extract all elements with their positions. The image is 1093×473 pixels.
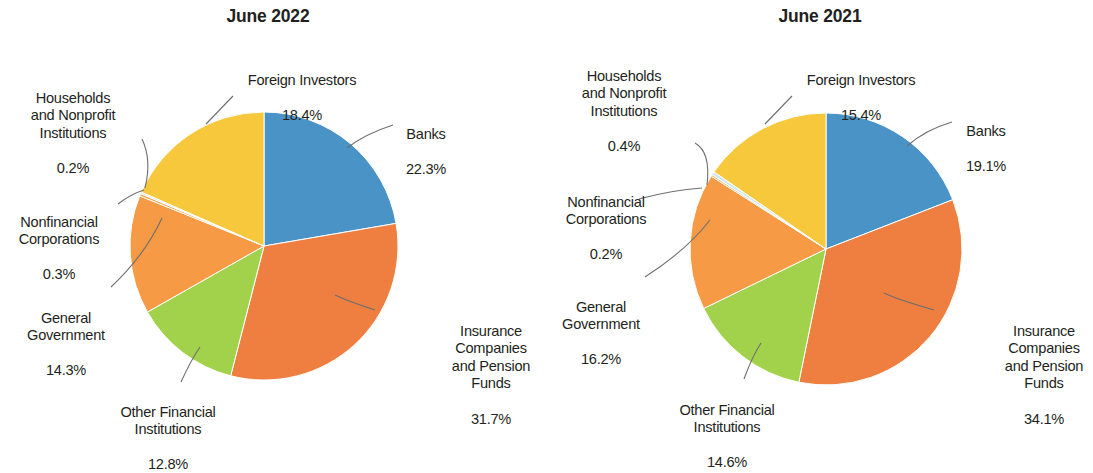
pie-graphic-right bbox=[690, 113, 962, 385]
label-other-financial-left: Other Financial Institutions 12.8% bbox=[98, 386, 238, 473]
label-insurance-right: Insurance Companies and Pension Funds 34… bbox=[990, 305, 1093, 428]
label-text: General Government bbox=[562, 299, 640, 333]
label-insurance-left: Insurance Companies and Pension Funds 31… bbox=[437, 305, 545, 428]
label-text: Insurance Companies and Pension Funds bbox=[1005, 323, 1083, 392]
pie-graphic-left bbox=[130, 112, 398, 380]
label-text: Foreign Investors bbox=[248, 72, 357, 88]
label-value: 14.6% bbox=[707, 454, 747, 470]
label-text: Insurance Companies and Pension Funds bbox=[452, 323, 530, 392]
label-value: 19.1% bbox=[966, 158, 1006, 174]
label-foreign-investors-right: Foreign Investors 15.4% bbox=[787, 54, 935, 124]
label-text: Households and Nonprofit Institutions bbox=[582, 68, 666, 119]
pie-slice-banks bbox=[264, 112, 396, 246]
label-text: Nonfinancial Corporations bbox=[19, 214, 100, 248]
label-government-left: General Government 14.3% bbox=[12, 292, 120, 380]
label-text: Banks bbox=[406, 126, 445, 142]
label-value: 0.2% bbox=[57, 160, 89, 176]
pie-slices-left bbox=[130, 112, 398, 380]
label-value: 0.2% bbox=[590, 246, 622, 262]
label-value: 22.3% bbox=[406, 161, 446, 177]
label-households-right: Households and Nonprofit Institutions 0.… bbox=[557, 50, 691, 156]
label-value: 15.4% bbox=[841, 107, 881, 123]
chart-title-left: June 2022 bbox=[0, 6, 541, 27]
label-text: Nonfinancial Corporations bbox=[566, 194, 647, 228]
pie-chart-june-2021: June 2021 Foreign Investors 15.4% Banks … bbox=[547, 0, 1093, 446]
label-banks-left: Banks 22.3% bbox=[385, 108, 467, 178]
label-households-left: Households and Nonprofit Institutions 0.… bbox=[6, 72, 140, 178]
label-value: 0.3% bbox=[43, 266, 75, 282]
label-value: 12.8% bbox=[148, 456, 188, 472]
label-text: Foreign Investors bbox=[807, 72, 916, 88]
label-value: 18.4% bbox=[282, 107, 322, 123]
label-nonfinancial-right: Nonfinancial Corporations 0.2% bbox=[547, 176, 665, 264]
pie-slices-right bbox=[690, 113, 962, 385]
label-text: Banks bbox=[966, 123, 1005, 139]
label-value: 0.4% bbox=[608, 138, 640, 154]
label-value: 16.2% bbox=[581, 351, 621, 367]
label-foreign-investors-left: Foreign Investors 18.4% bbox=[228, 54, 376, 124]
chart-title-right: June 2021 bbox=[547, 6, 1093, 27]
label-government-right: General Government 16.2% bbox=[547, 281, 655, 369]
label-text: General Government bbox=[27, 310, 105, 344]
label-value: 14.3% bbox=[46, 362, 86, 378]
pie-chart-june-2022: June 2022 Foreign Investors 18.4% Banks … bbox=[0, 0, 546, 446]
label-value: 34.1% bbox=[1024, 411, 1064, 427]
label-nonfinancial-left: Nonfinancial Corporations 0.3% bbox=[0, 196, 118, 284]
label-banks-right: Banks 19.1% bbox=[945, 105, 1027, 175]
label-text: Other Financial Institutions bbox=[120, 404, 215, 438]
label-text: Other Financial Institutions bbox=[679, 402, 774, 436]
label-value: 31.7% bbox=[471, 411, 511, 427]
label-other-financial-right: Other Financial Institutions 14.6% bbox=[657, 384, 797, 472]
label-text: Households and Nonprofit Institutions bbox=[31, 90, 115, 141]
